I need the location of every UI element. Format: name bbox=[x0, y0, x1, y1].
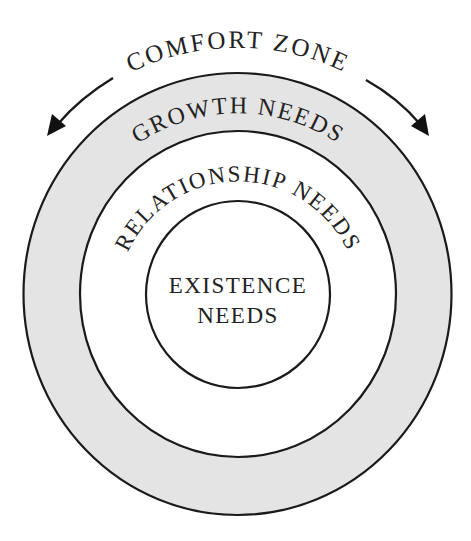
existence-label-line1: EXISTENCE bbox=[169, 273, 308, 298]
comfort-zone-text: COMFORT ZONE bbox=[122, 26, 354, 77]
erg-needs-diagram: COMFORT ZONE GROWTH NEEDS RELATIONSHIP N… bbox=[0, 0, 471, 541]
comfort-zone-label: COMFORT ZONE bbox=[122, 26, 354, 77]
existence-label-line2: NEEDS bbox=[197, 303, 279, 328]
